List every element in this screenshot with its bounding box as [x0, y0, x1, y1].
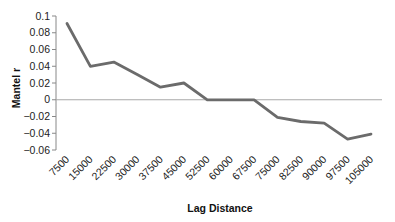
- data-series-line: [67, 24, 371, 140]
- y-tick-label: −0.04: [23, 127, 50, 139]
- x-tick-label: 22500: [89, 153, 118, 182]
- mantel-correlogram-chart: 0.10.080.060.040.020−0.02−0.04−0.06 7500…: [0, 0, 395, 222]
- plot-area: 0.10.080.060.040.020−0.02−0.04−0.06 7500…: [0, 0, 395, 222]
- y-tick-label: 0.08: [30, 26, 51, 38]
- x-tick-label: 75000: [253, 153, 282, 182]
- x-tick-label: 37500: [136, 153, 165, 182]
- y-axis: 0.10.080.060.040.020−0.02−0.04−0.06: [23, 10, 56, 156]
- x-axis: 7500150002250030000375004500052500600006…: [46, 153, 375, 186]
- x-tick-label: 90000: [300, 153, 329, 182]
- y-tick-label: 0.04: [30, 60, 51, 72]
- y-axis-title: Mantel r: [10, 68, 22, 108]
- y-tick-label: 0: [44, 93, 50, 105]
- x-tick-label: 15000: [66, 153, 95, 182]
- x-tick-label: 82500: [276, 153, 305, 182]
- y-tick-label: 0.02: [30, 77, 51, 89]
- x-axis-title: Lag Distance: [187, 202, 253, 214]
- y-tick-label: 0.1: [35, 10, 50, 22]
- x-tick-label: 52500: [183, 153, 212, 182]
- y-tick-label: 0.06: [30, 43, 51, 55]
- y-tick-label: −0.06: [23, 144, 50, 156]
- y-tick-label: −0.02: [23, 110, 50, 122]
- x-tick-label: 30000: [112, 153, 141, 182]
- x-tick-label: 45000: [159, 153, 188, 182]
- x-tick-label: 67500: [229, 153, 258, 182]
- x-tick-label: 60000: [206, 153, 235, 182]
